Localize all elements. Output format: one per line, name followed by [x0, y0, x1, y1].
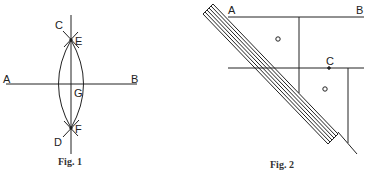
fig1-label-g: G	[74, 88, 83, 99]
fig2-marker-1	[276, 37, 280, 41]
fig1-label-b: B	[131, 74, 138, 85]
fig1-label-c: C	[55, 20, 63, 31]
fig2-label-c: C	[326, 56, 334, 67]
fig2-marker-2	[323, 87, 327, 91]
fig1-point-e	[70, 39, 72, 41]
fig1-point-f	[70, 127, 72, 129]
fig1-label-d: D	[54, 137, 62, 148]
fig1-drawing	[6, 15, 137, 154]
fig2-drawing	[203, 4, 364, 154]
fig2-ruler	[203, 4, 338, 144]
fig1-label-a: A	[3, 74, 10, 85]
fig2-label-b: B	[356, 5, 363, 16]
fig2-point-c	[328, 67, 331, 70]
fig2-label-a: A	[228, 5, 235, 16]
fig1-label-e: E	[75, 36, 82, 47]
fig1-label-f: F	[75, 124, 82, 135]
fig2-caption: Fig. 2	[270, 160, 294, 170]
fig1-caption: Fig. 1	[58, 157, 82, 167]
